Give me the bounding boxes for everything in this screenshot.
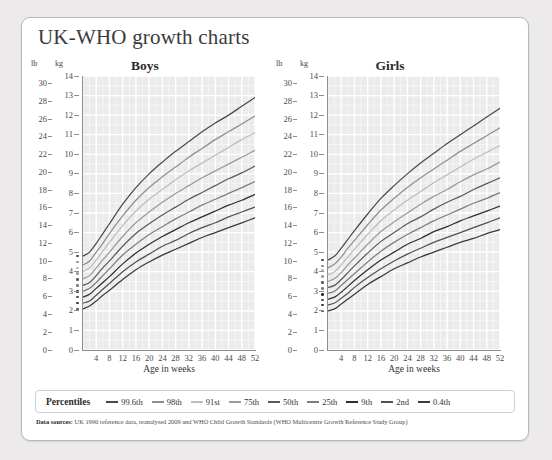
tick-mark	[319, 252, 324, 253]
tick-mark	[293, 278, 297, 279]
legend-item[interactable]: 25th	[307, 397, 337, 407]
tick-mark	[319, 173, 324, 174]
tick-mark	[48, 101, 52, 102]
y-tick-kg: 14	[57, 71, 73, 81]
y-tick-kg: 6	[57, 227, 73, 237]
percentile-curves	[83, 76, 255, 350]
tick-mark	[319, 76, 324, 77]
birth-weight-marker	[321, 281, 324, 284]
tick-mark	[48, 278, 52, 279]
tick-mark	[319, 291, 324, 292]
tick-mark	[74, 193, 79, 194]
legend-swatch	[191, 401, 203, 403]
y-tick-lb: 10	[276, 256, 292, 266]
y-tick-lb: 16	[31, 202, 47, 212]
y-tick-lb: 28	[31, 96, 47, 106]
birth-weight-marker	[321, 293, 324, 296]
y-tick-lb: 14	[31, 220, 47, 230]
tick-mark	[48, 332, 52, 333]
tick-mark	[319, 310, 324, 311]
birth-weight-marker	[76, 272, 79, 275]
legend-item[interactable]: 2nd	[381, 397, 409, 407]
legend-swatch	[106, 401, 118, 403]
legend-item[interactable]: 9th	[346, 397, 372, 407]
y-tick-kg: 13	[302, 90, 318, 100]
tick-mark	[48, 136, 52, 137]
y-tick-kg: 13	[57, 90, 73, 100]
y-tick-lb: 10	[31, 256, 47, 266]
legend-item[interactable]: 98th	[152, 397, 182, 407]
tick-mark	[48, 296, 52, 297]
legend-item[interactable]: 99.6th	[106, 397, 143, 407]
y-tick-kg: 8	[57, 188, 73, 198]
tick-mark	[74, 173, 79, 174]
tick-mark	[74, 134, 79, 135]
y-tick-kg: 10	[302, 149, 318, 159]
y-tick-lb: 22	[276, 149, 292, 159]
birth-weight-marker	[76, 296, 79, 299]
y-tick-lb: 30	[31, 78, 47, 88]
legend-items: 99.6th98th91st75th50th25th9th2nd0.4th	[106, 397, 450, 407]
y-tick-kg: 4	[302, 266, 318, 276]
tick-mark	[293, 190, 297, 191]
legend-item[interactable]: 50th	[268, 397, 298, 407]
page-title: UK-WHO growth charts	[38, 25, 250, 50]
y-axis-boys	[82, 76, 83, 351]
legend-item[interactable]: 0.4th	[418, 397, 450, 407]
y-tick-kg: 2	[57, 305, 73, 315]
tick-mark	[293, 172, 297, 173]
legend-label: 50th	[283, 397, 298, 407]
x-axis-boys	[82, 350, 256, 351]
tick-mark	[319, 330, 324, 331]
tick-mark	[48, 261, 52, 262]
y-tick-lb: 18	[276, 185, 292, 195]
growth-chart-card: UK-WHO growth charts Boys lb kg Age in w…	[21, 17, 529, 441]
tick-mark	[48, 314, 52, 315]
y-tick-lb: 14	[276, 220, 292, 230]
chart-panel-boys: Boys lb kg Age in weeks 0123456789101112…	[29, 58, 261, 380]
tick-mark	[74, 213, 79, 214]
y-tick-kg: 5	[57, 247, 73, 257]
tick-mark	[48, 119, 52, 120]
unit-label-kg-boys: kg	[55, 59, 63, 68]
x-axis-girls	[327, 350, 501, 351]
legend-swatch	[307, 401, 319, 403]
y-tick-kg: 11	[57, 129, 73, 139]
y-tick-lb: 4	[276, 309, 292, 319]
y-tick-kg: 8	[302, 188, 318, 198]
tick-mark	[293, 332, 297, 333]
y-tick-kg: 0	[302, 345, 318, 355]
tick-mark	[319, 213, 324, 214]
tick-mark	[48, 190, 52, 191]
legend-swatch	[152, 401, 164, 403]
y-tick-lb: 4	[31, 309, 47, 319]
y-tick-lb: 2	[276, 327, 292, 337]
tick-mark	[319, 350, 324, 351]
legend-title: Percentiles	[46, 397, 90, 407]
tick-mark	[74, 310, 79, 311]
legend-label: 91st	[206, 397, 220, 407]
legend-item[interactable]: 91st	[191, 397, 220, 407]
tick-mark	[293, 119, 297, 120]
y-tick-lb: 22	[31, 149, 47, 159]
tick-mark	[48, 243, 52, 244]
birth-weight-marker	[321, 265, 324, 268]
tick-mark	[74, 232, 79, 233]
y-tick-kg: 5	[302, 247, 318, 257]
tick-mark	[319, 193, 324, 194]
y-tick-kg: 1	[57, 325, 73, 335]
y-tick-kg: 9	[57, 168, 73, 178]
plot-area-boys	[83, 76, 255, 350]
y-tick-kg: 12	[57, 110, 73, 120]
y-tick-kg: 7	[57, 208, 73, 218]
tick-mark	[319, 134, 324, 135]
y-tick-lb: 0	[31, 345, 47, 355]
y-tick-lb: 16	[276, 202, 292, 212]
legend-label: 9th	[361, 397, 372, 407]
tick-mark	[293, 136, 297, 137]
y-tick-lb: 28	[276, 96, 292, 106]
legend-item[interactable]: 75th	[229, 397, 259, 407]
legend-label: 98th	[167, 397, 182, 407]
tick-mark	[293, 261, 297, 262]
legend: Percentiles 99.6th98th91st75th50th25th9t…	[35, 390, 515, 413]
